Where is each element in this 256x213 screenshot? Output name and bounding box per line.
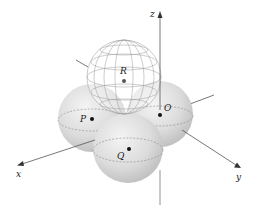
z-axis-arrow-icon xyxy=(158,11,163,18)
y-axis xyxy=(182,130,236,165)
neg-y-axis xyxy=(190,95,214,104)
z-axis-label: z xyxy=(149,9,155,19)
label-o: O xyxy=(164,103,172,113)
neg-x-axis xyxy=(76,60,88,67)
point-o xyxy=(158,113,162,117)
x-axis-label: x xyxy=(16,169,21,179)
point-r xyxy=(122,79,126,83)
x-axis-arrow-icon xyxy=(17,161,24,166)
sphere-diagram: z x y R P O Q xyxy=(0,0,256,213)
x-axis xyxy=(22,140,95,164)
point-p xyxy=(90,117,94,121)
sphere-r-wireframe xyxy=(87,40,161,114)
y-axis-label: y xyxy=(235,172,242,182)
label-q: Q xyxy=(117,151,125,161)
label-p: P xyxy=(79,114,87,124)
point-q xyxy=(127,147,131,151)
label-r: R xyxy=(119,66,127,76)
y-axis-arrow-icon xyxy=(234,163,241,169)
